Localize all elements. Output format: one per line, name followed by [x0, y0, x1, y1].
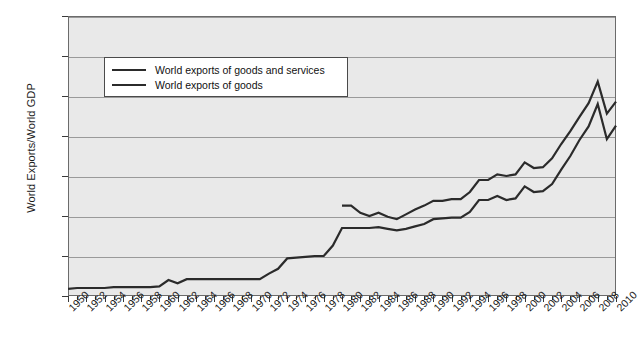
legend-label: World exports of goods and services [155, 64, 325, 76]
legend-line-icon [112, 84, 146, 86]
legend-item-goods-and-services: World exports of goods and services [112, 62, 340, 77]
x-axis-tick-label: 2010 [614, 288, 639, 313]
chart-legend: World exports of goods and services Worl… [104, 57, 348, 97]
series-line-goods-and-services [342, 82, 616, 220]
series-line-goods [68, 104, 616, 289]
legend-label: World exports of goods [155, 79, 263, 91]
legend-line-icon [112, 69, 146, 71]
legend-item-goods: World exports of goods [112, 77, 340, 92]
y-axis-title: World Exports/World GDP [25, 38, 37, 258]
